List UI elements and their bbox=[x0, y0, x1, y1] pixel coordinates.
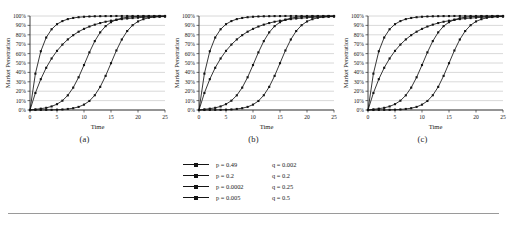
legend-p-value: p = 0.0002 bbox=[209, 183, 272, 190]
svg-text:5: 5 bbox=[225, 114, 228, 120]
svg-text:20: 20 bbox=[304, 114, 310, 120]
legend-p-value: p = 0.005 bbox=[209, 194, 272, 201]
svg-text:0: 0 bbox=[198, 114, 201, 120]
svg-text:60%: 60% bbox=[354, 51, 365, 57]
svg-text:20: 20 bbox=[135, 114, 141, 120]
svg-text:5: 5 bbox=[56, 114, 59, 120]
legend-q-value: q = 0.25 bbox=[272, 183, 324, 190]
svg-text:60%: 60% bbox=[185, 51, 196, 57]
chart-panels-row: 0%10%20%30%40%50%60%70%80%90%100%0510152… bbox=[0, 2, 507, 157]
svg-text:10: 10 bbox=[81, 114, 87, 120]
svg-text:10%: 10% bbox=[354, 98, 365, 104]
svg-text:40%: 40% bbox=[354, 69, 365, 75]
svg-text:15: 15 bbox=[108, 114, 114, 120]
svg-text:50%: 50% bbox=[354, 60, 365, 66]
plot-area-c: 0%10%20%30%40%50%60%70%80%90%100%0510152… bbox=[338, 2, 507, 136]
svg-text:10: 10 bbox=[419, 114, 425, 120]
svg-text:0%: 0% bbox=[357, 107, 365, 113]
svg-text:25: 25 bbox=[162, 114, 168, 120]
figure-legend: p = 0.49q = 0.002p = 0.2q = 0.2p = 0.000… bbox=[0, 158, 507, 204]
panel-caption-b: (b) bbox=[169, 134, 338, 144]
plot-area-b: 0%10%20%30%40%50%60%70%80%90%100%0510152… bbox=[169, 2, 338, 136]
chart-panel-a: 0%10%20%30%40%50%60%70%80%90%100%0510152… bbox=[0, 2, 169, 157]
legend-row: p = 0.49q = 0.002 bbox=[183, 160, 324, 170]
svg-text:20: 20 bbox=[473, 114, 479, 120]
svg-text:90%: 90% bbox=[185, 22, 196, 28]
legend-line-marker-icon bbox=[183, 182, 209, 191]
svg-text:50%: 50% bbox=[185, 60, 196, 66]
plot-area-a: 0%10%20%30%40%50%60%70%80%90%100%0510152… bbox=[0, 2, 169, 136]
svg-text:10%: 10% bbox=[185, 98, 196, 104]
chart-panel-c: 0%10%20%30%40%50%60%70%80%90%100%0510152… bbox=[338, 2, 507, 157]
svg-text:0: 0 bbox=[29, 114, 32, 120]
svg-text:20%: 20% bbox=[354, 88, 365, 94]
legend-line-marker-icon bbox=[183, 171, 209, 180]
svg-text:50%: 50% bbox=[16, 60, 27, 66]
svg-text:Time: Time bbox=[260, 123, 274, 130]
svg-text:25: 25 bbox=[331, 114, 337, 120]
svg-text:90%: 90% bbox=[354, 22, 365, 28]
legend-rows: p = 0.49q = 0.002p = 0.2q = 0.2p = 0.000… bbox=[183, 158, 324, 204]
svg-text:10%: 10% bbox=[16, 98, 27, 104]
legend-row: p = 0.2q = 0.2 bbox=[183, 171, 324, 181]
svg-text:80%: 80% bbox=[354, 32, 365, 38]
svg-text:Market Penetration: Market Penetration bbox=[173, 37, 180, 88]
svg-text:Market Penetration: Market Penetration bbox=[342, 37, 349, 88]
figure-container: 0%10%20%30%40%50%60%70%80%90%100%0510152… bbox=[0, 0, 507, 225]
legend-q-value: q = 0.5 bbox=[272, 194, 324, 201]
svg-text:0%: 0% bbox=[188, 107, 196, 113]
svg-text:70%: 70% bbox=[354, 41, 365, 47]
svg-text:40%: 40% bbox=[16, 69, 27, 75]
legend-row: p = 0.0002q = 0.25 bbox=[183, 182, 324, 192]
chart-panel-b: 0%10%20%30%40%50%60%70%80%90%100%0510152… bbox=[169, 2, 338, 157]
svg-text:Market Penetration: Market Penetration bbox=[4, 37, 11, 88]
bottom-divider bbox=[8, 213, 499, 214]
svg-text:15: 15 bbox=[277, 114, 283, 120]
svg-text:5: 5 bbox=[394, 114, 397, 120]
svg-text:Time: Time bbox=[429, 123, 443, 130]
svg-text:70%: 70% bbox=[185, 41, 196, 47]
svg-text:100%: 100% bbox=[13, 13, 26, 19]
svg-text:20%: 20% bbox=[16, 88, 27, 94]
legend-line-marker-icon bbox=[183, 160, 209, 169]
svg-text:100%: 100% bbox=[351, 13, 364, 19]
legend-p-value: p = 0.2 bbox=[209, 172, 272, 179]
svg-text:20%: 20% bbox=[185, 88, 196, 94]
legend-line-marker-icon bbox=[183, 193, 209, 202]
svg-text:80%: 80% bbox=[185, 32, 196, 38]
svg-text:30%: 30% bbox=[354, 79, 365, 85]
svg-text:80%: 80% bbox=[16, 32, 27, 38]
svg-text:0%: 0% bbox=[19, 107, 27, 113]
svg-text:25: 25 bbox=[500, 114, 506, 120]
svg-text:90%: 90% bbox=[16, 22, 27, 28]
svg-text:30%: 30% bbox=[185, 79, 196, 85]
legend-p-value: p = 0.49 bbox=[209, 161, 272, 168]
svg-text:10: 10 bbox=[250, 114, 256, 120]
svg-text:30%: 30% bbox=[16, 79, 27, 85]
svg-text:60%: 60% bbox=[16, 51, 27, 57]
svg-text:40%: 40% bbox=[185, 69, 196, 75]
panel-caption-a: (a) bbox=[0, 134, 169, 144]
legend-q-value: q = 0.2 bbox=[272, 172, 324, 179]
svg-text:70%: 70% bbox=[16, 41, 27, 47]
legend-q-value: q = 0.002 bbox=[272, 161, 324, 168]
panel-caption-c: (c) bbox=[338, 134, 507, 144]
svg-text:0: 0 bbox=[367, 114, 370, 120]
svg-text:100%: 100% bbox=[182, 13, 195, 19]
legend-row: p = 0.005q = 0.5 bbox=[183, 193, 324, 203]
svg-text:15: 15 bbox=[446, 114, 452, 120]
svg-text:Time: Time bbox=[91, 123, 105, 130]
